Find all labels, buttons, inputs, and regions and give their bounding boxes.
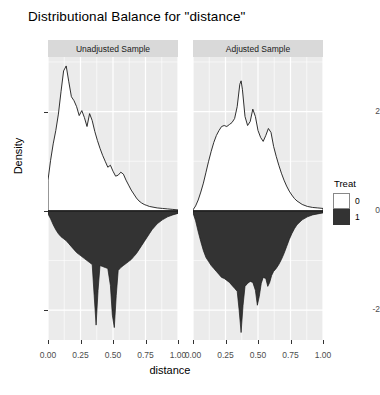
- x-tick-mark: [146, 340, 147, 344]
- x-tick-mark: [258, 340, 259, 344]
- page-title: Distributional Balance for "distance": [28, 9, 245, 24]
- y-tick-mark: [44, 112, 48, 113]
- legend-label-0: 0: [355, 196, 360, 206]
- legend-swatch-0: [333, 193, 350, 209]
- density-plot-adjusted: [193, 57, 323, 340]
- x-tick-label: 0.25: [211, 350, 241, 360]
- density-plot-unadjusted: [48, 57, 178, 340]
- x-tick-label: 0.00: [178, 350, 208, 360]
- facet-strip-label: Unadjusted Sample: [76, 44, 150, 54]
- legend-item-0[interactable]: 0: [333, 193, 379, 209]
- y-tick-mark: [44, 211, 48, 212]
- facet-strip-unadjusted: Unadjusted Sample: [48, 40, 178, 57]
- x-tick-label: 0.25: [66, 350, 96, 360]
- facet-strip-adjusted: Adjusted Sample: [193, 40, 323, 57]
- x-tick-mark: [48, 340, 49, 344]
- x-tick-label: 1.00: [308, 350, 338, 360]
- chart-root: Distributional Balance for "distance" Un…: [0, 0, 380, 395]
- x-tick-label: 0.75: [131, 350, 161, 360]
- panel-adjusted-sample: [193, 57, 323, 340]
- x-tick-label: 0.50: [98, 350, 128, 360]
- y-axis-title: Density: [12, 116, 24, 196]
- x-tick-label: 0.50: [243, 350, 273, 360]
- panel-unadjusted-sample: [48, 57, 178, 340]
- x-tick-mark: [81, 340, 82, 344]
- x-tick-mark: [113, 340, 114, 344]
- y-tick-label: -2: [354, 304, 380, 314]
- y-tick-label: 2: [354, 106, 380, 116]
- legend-item-1[interactable]: 1: [333, 209, 379, 225]
- x-axis-title: distance: [0, 364, 340, 376]
- legend-label-1: 1: [355, 212, 360, 222]
- x-tick-mark: [178, 340, 179, 344]
- x-tick-label: 0.75: [276, 350, 306, 360]
- x-tick-mark: [226, 340, 227, 344]
- legend: Treat 0 1: [333, 178, 379, 225]
- facet-strip-label: Adjusted Sample: [226, 44, 290, 54]
- y-tick-mark: [44, 310, 48, 311]
- legend-title: Treat: [334, 178, 379, 189]
- x-tick-mark: [193, 340, 194, 344]
- x-tick-mark: [323, 340, 324, 344]
- x-tick-label: 0.00: [33, 350, 63, 360]
- legend-swatch-1: [333, 209, 350, 225]
- x-tick-mark: [291, 340, 292, 344]
